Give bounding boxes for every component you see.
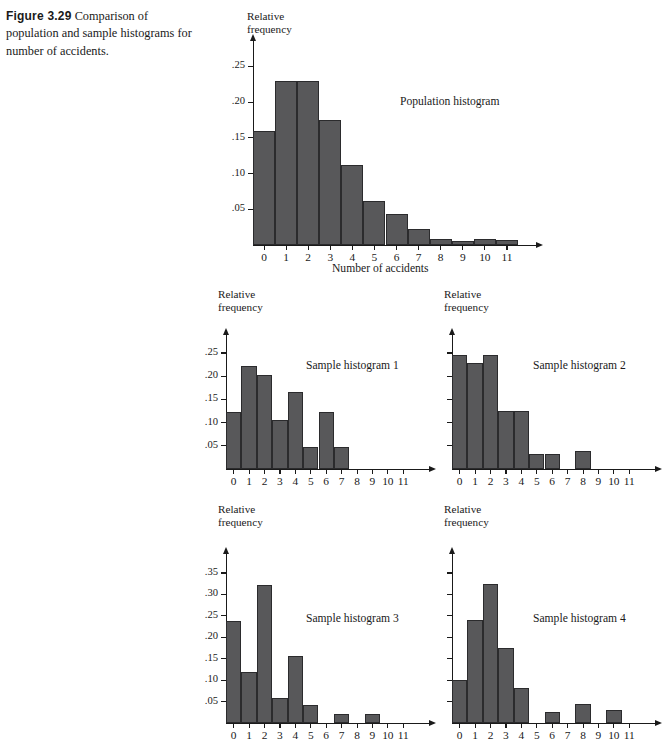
- x-tick-sample4-1: [475, 724, 476, 728]
- x-tick-sample2-11: [629, 470, 630, 474]
- bar-population-3: [319, 120, 341, 245]
- x-tick-sample3-5: [310, 724, 311, 728]
- x-tick-sample1-3: [279, 470, 280, 474]
- figure-caption: Figure 3.29 Comparison of population and…: [6, 8, 196, 60]
- y-axis-title-sample3: Relative frequency: [218, 503, 263, 530]
- bar-population-1: [275, 81, 297, 245]
- bar-sample2-4: [514, 411, 529, 469]
- y-axis-title-sample1: Relative frequency: [218, 288, 263, 315]
- y-tick-label-sample1-1: .10: [194, 416, 218, 427]
- y-axis-arrow-population: [250, 34, 256, 41]
- bar-sample4-4: [514, 688, 529, 723]
- x-tick-label-population-0: 0: [253, 251, 275, 263]
- x-tick-sample1-4: [295, 470, 296, 474]
- x-tick-population-3: [330, 246, 331, 250]
- x-axis-arrow-population: [536, 242, 543, 248]
- x-tick-sample4-7: [567, 724, 568, 728]
- x-tick-label-sample1-11: 11: [392, 475, 414, 487]
- y-tick-label-population-4: .25: [219, 59, 245, 70]
- x-axis-title-population: Number of accidents: [332, 262, 429, 275]
- x-tick-sample1-7: [341, 470, 342, 474]
- bar-sample2-3: [498, 411, 513, 469]
- bar-population-6: [386, 214, 408, 245]
- bar-sample3-4: [288, 656, 303, 723]
- y-axis-title-sample2: Relative frequency: [444, 288, 489, 315]
- bar-sample4-6: [545, 712, 560, 723]
- x-tick-sample2-10: [613, 470, 614, 474]
- bar-sample4-10: [606, 710, 621, 723]
- x-tick-population-8: [440, 246, 441, 250]
- chart-title-sample4: Sample histogram 4: [533, 612, 626, 625]
- x-tick-sample3-1: [249, 724, 250, 728]
- x-tick-sample3-8: [357, 724, 358, 728]
- bar-population-10: [474, 239, 496, 245]
- bar-sample1-3: [272, 420, 287, 469]
- y-tick-sample1-3: [221, 376, 227, 377]
- bar-population-2: [297, 81, 319, 245]
- x-tick-label-population-2: 2: [297, 251, 319, 263]
- bar-sample1-7: [334, 447, 349, 469]
- x-tick-label-sample4-11: 11: [618, 729, 640, 741]
- x-tick-sample2-0: [459, 470, 460, 474]
- x-tick-sample4-10: [613, 724, 614, 728]
- y-tick-sample1-4: [221, 352, 227, 353]
- y-tick-label-sample3-0: .05: [194, 695, 218, 706]
- x-tick-sample3-11: [403, 724, 404, 728]
- bar-sample2-1: [467, 363, 482, 469]
- x-tick-population-11: [506, 246, 507, 250]
- chart-title-sample1: Sample histogram 1: [306, 359, 399, 372]
- y-tick-label-sample3-5: .30: [194, 587, 218, 598]
- bar-sample4-0: [452, 680, 467, 723]
- x-tick-sample1-11: [403, 470, 404, 474]
- x-tick-sample3-9: [372, 724, 373, 728]
- x-tick-sample2-6: [552, 470, 553, 474]
- x-tick-sample1-5: [310, 470, 311, 474]
- bar-sample3-2: [257, 585, 272, 723]
- y-tick-sample1-2: [221, 399, 227, 400]
- y-axis-title-sample4: Relative frequency: [444, 503, 489, 530]
- x-tick-label-population-11: 11: [496, 251, 518, 263]
- x-tick-sample4-3: [505, 724, 506, 728]
- x-tick-sample3-3: [279, 724, 280, 728]
- y-axis-arrow-sample3: [223, 547, 229, 554]
- x-tick-population-1: [286, 246, 287, 250]
- y-axis-arrow-sample4: [449, 547, 455, 554]
- y-tick-label-sample3-3: .20: [194, 630, 218, 641]
- x-axis-arrow-sample1: [429, 466, 436, 472]
- bar-sample2-8: [575, 451, 590, 469]
- x-tick-sample1-8: [357, 470, 358, 474]
- x-tick-sample2-8: [583, 470, 584, 474]
- bar-sample4-1: [467, 620, 482, 723]
- bar-population-7: [408, 229, 430, 245]
- bar-sample1-2: [257, 375, 272, 469]
- x-tick-sample2-9: [598, 470, 599, 474]
- x-tick-sample2-4: [521, 470, 522, 474]
- x-tick-sample1-1: [249, 470, 250, 474]
- bar-population-5: [363, 201, 385, 245]
- y-tick-label-sample3-6: .35: [194, 566, 218, 577]
- x-tick-sample3-6: [326, 724, 327, 728]
- x-axis-line-population: [253, 245, 536, 246]
- x-tick-label-population-10: 10: [474, 251, 496, 263]
- x-tick-sample1-2: [264, 470, 265, 474]
- bar-sample1-1: [241, 366, 256, 469]
- x-tick-sample3-7: [341, 724, 342, 728]
- x-tick-population-2: [308, 246, 309, 250]
- x-tick-label-population-1: 1: [275, 251, 297, 263]
- x-tick-population-7: [418, 246, 419, 250]
- bar-population-11: [496, 240, 518, 245]
- x-tick-sample3-2: [264, 724, 265, 728]
- chart-title-population: Population histogram: [400, 95, 500, 108]
- bar-population-4: [341, 165, 363, 245]
- y-tick-label-population-1: .10: [219, 167, 245, 178]
- bar-sample3-3: [272, 698, 287, 723]
- x-tick-population-0: [264, 246, 265, 250]
- x-tick-population-10: [484, 246, 485, 250]
- bar-sample4-2: [483, 584, 498, 723]
- x-tick-population-4: [352, 246, 353, 250]
- y-axis-arrow-sample1: [223, 328, 229, 335]
- y-tick-sample2-4: [447, 352, 453, 353]
- bar-sample2-5: [529, 454, 544, 469]
- y-tick-label-sample3-4: .25: [194, 609, 218, 620]
- x-tick-population-5: [374, 246, 375, 250]
